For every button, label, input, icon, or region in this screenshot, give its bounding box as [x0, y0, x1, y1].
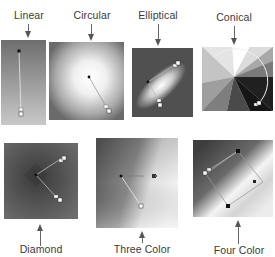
linear-gradient-panel	[1, 40, 46, 125]
conical-gradient-panel	[202, 47, 273, 111]
four-color-gradient-panel	[193, 140, 273, 217]
label-diamond: Diamond	[20, 243, 63, 255]
label-circular: Circular	[74, 9, 111, 21]
elliptical-gradient-panel	[132, 48, 193, 117]
label-four-color: Four Color	[214, 244, 265, 256]
label-conical: Conical	[216, 11, 252, 23]
label-elliptical: Elliptical	[138, 9, 178, 21]
circular-gradient-panel	[49, 42, 124, 120]
diamond-gradient-panel	[4, 143, 78, 219]
label-three-color: Three Color	[114, 243, 171, 255]
three-color-gradient-panel	[96, 138, 178, 228]
label-linear: Linear	[14, 9, 44, 21]
